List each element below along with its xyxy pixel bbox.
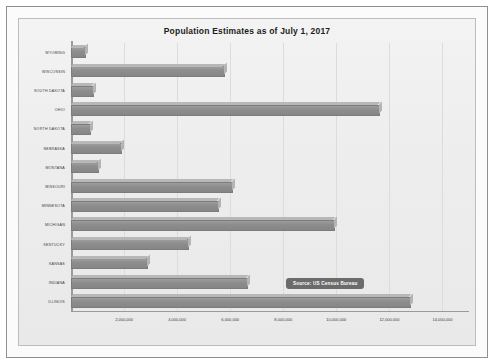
y-axis-tick-label: OHIO bbox=[19, 102, 69, 118]
bar-row bbox=[71, 83, 469, 99]
bar-row bbox=[71, 294, 469, 310]
y-axis-tick-label: WISCONSIN bbox=[19, 64, 69, 80]
bar[interactable] bbox=[71, 278, 248, 289]
y-axis-tick-label: MISSOURI bbox=[19, 179, 69, 195]
y-axis-tick-label: NORTH DAKOTA bbox=[19, 121, 69, 137]
bar[interactable] bbox=[71, 162, 99, 173]
page-frame: Population Estimates as of July 1, 2017 … bbox=[6, 6, 488, 358]
chart-title: Population Estimates as of July 1, 2017 bbox=[19, 26, 475, 36]
y-axis-tick-label: NEBRASKA bbox=[19, 141, 69, 157]
x-axis-tick-label: 12,000,000 bbox=[379, 317, 399, 322]
y-axis-tick-label: MICHIGAN bbox=[19, 217, 69, 233]
bar-row bbox=[71, 275, 469, 291]
bar[interactable] bbox=[71, 182, 233, 193]
bar[interactable] bbox=[71, 239, 189, 250]
bar-row bbox=[71, 179, 469, 195]
x-axis-tick-label: 8,000,000 bbox=[274, 317, 292, 322]
chart-canvas: Population Estimates as of July 1, 2017 … bbox=[18, 18, 476, 346]
bar[interactable] bbox=[71, 86, 94, 97]
bar[interactable] bbox=[71, 201, 219, 212]
y-axis-tick-label: ILLINOIS bbox=[19, 294, 69, 310]
bar-row bbox=[71, 45, 469, 61]
source-annotation: Source: US Census Bureau bbox=[286, 278, 365, 289]
bar[interactable] bbox=[71, 105, 380, 116]
bar[interactable] bbox=[71, 258, 148, 269]
bar-row bbox=[71, 141, 469, 157]
y-axis-tick-label: WYOMING bbox=[19, 45, 69, 61]
y-axis-tick-label: SOUTH DAKOTA bbox=[19, 83, 69, 99]
x-axis-tick-label: 14,000,000 bbox=[432, 317, 452, 322]
x-axis-tick-label: 4,000,000 bbox=[168, 317, 186, 322]
x-axis-tick-label: 2,000,000 bbox=[115, 317, 133, 322]
y-axis-tick-label: KANSAS bbox=[19, 256, 69, 272]
bar[interactable] bbox=[71, 66, 225, 77]
bar-row bbox=[71, 237, 469, 253]
y-axis-tick-label: KENTUCKY bbox=[19, 237, 69, 253]
chart-screenshot: Population Estimates as of July 1, 2017 … bbox=[0, 0, 494, 364]
bar[interactable] bbox=[71, 124, 91, 135]
bar[interactable] bbox=[71, 220, 335, 231]
bar-row bbox=[71, 64, 469, 80]
bar[interactable] bbox=[71, 297, 411, 308]
bar[interactable] bbox=[71, 47, 86, 58]
x-axis-tick-label: 10,000,000 bbox=[326, 317, 346, 322]
bar-row bbox=[71, 121, 469, 137]
bar-series bbox=[71, 43, 469, 312]
plot-area: Source: US Census Bureau bbox=[71, 43, 469, 312]
bar-row bbox=[71, 217, 469, 233]
bar-row bbox=[71, 102, 469, 118]
bar-row bbox=[71, 160, 469, 176]
x-axis-labels: 2,000,0004,000,0006,000,0008,000,00010,0… bbox=[71, 317, 469, 327]
y-axis-tick-label: MONTANA bbox=[19, 160, 69, 176]
y-axis-tick-label: INDIANA bbox=[19, 275, 69, 291]
bar[interactable] bbox=[71, 143, 122, 154]
y-axis-labels: ILLINOISINDIANAKANSASKENTUCKYMICHIGANMIN… bbox=[19, 43, 69, 312]
bar-row bbox=[71, 256, 469, 272]
bar-row bbox=[71, 198, 469, 214]
x-axis-tick-label: 6,000,000 bbox=[221, 317, 239, 322]
y-axis-tick-label: MINNESOTA bbox=[19, 198, 69, 214]
